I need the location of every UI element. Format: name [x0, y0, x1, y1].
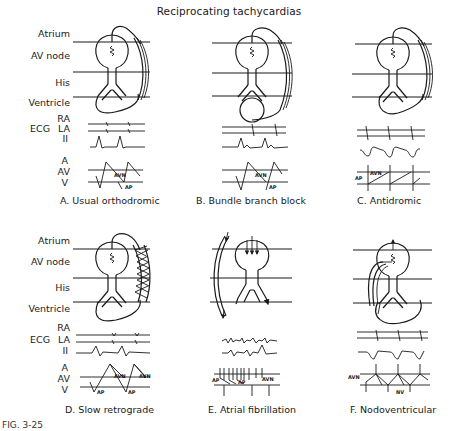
diagram-canvas: AVN AP AVN AP: [0, 0, 458, 431]
panel-c-diagram: AP AVN: [352, 28, 433, 191]
ladder-label-avn: AVN: [262, 376, 274, 382]
panel-d-diagram: AVN AVN AP AP: [73, 234, 151, 395]
panel-a-diagram: AVN AP: [73, 27, 150, 190]
panel-e-diagram: AP AP AVN: [210, 232, 292, 396]
ladder-label-ap: AP: [269, 184, 277, 190]
ladder-label-avn-1: AVN: [114, 373, 126, 379]
ladder-label-ap-1: AP: [212, 377, 220, 383]
ladder-label-ap: AP: [355, 175, 363, 181]
ladder-label-avn: AVN: [348, 374, 360, 380]
ladder-label-ap: AP: [125, 184, 133, 190]
ladder-label-ap-1: AP: [97, 389, 105, 395]
panel-b-diagram: AVN AP: [212, 28, 292, 190]
panel-f-diagram: AVN NV: [348, 240, 432, 395]
ladder-label-avn: AVN: [255, 172, 267, 178]
ladder-label-ap-2: AP: [128, 389, 136, 395]
ladder-label-ap-2: AP: [238, 379, 246, 385]
ladder-label-avn: AVN: [370, 170, 382, 176]
ladder-label-avn-2: AVN: [139, 373, 151, 379]
ladder-label-avn: AVN: [114, 172, 126, 178]
ladder-label-nv: NV: [396, 389, 404, 395]
